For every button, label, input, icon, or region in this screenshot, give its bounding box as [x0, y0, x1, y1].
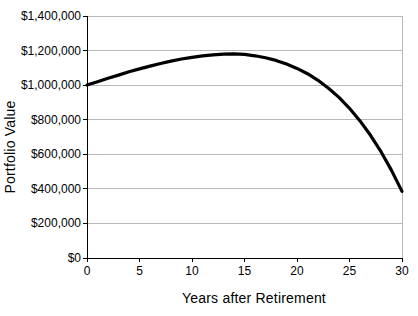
- x-axis-tick-label: 20: [290, 264, 304, 278]
- x-axis-tick-label: 30: [395, 264, 409, 278]
- y-axis-tick-label: $800,000: [31, 113, 81, 127]
- y-axis-tick-label: $1,200,000: [21, 44, 81, 58]
- x-axis-tick-label: 5: [136, 264, 143, 278]
- x-axis-tick-label: 15: [238, 264, 252, 278]
- x-axis-tick-label: 0: [84, 264, 91, 278]
- portfolio-chart: $0$200,000$400,000$600,000$800,000$1,000…: [0, 0, 418, 316]
- y-axis-tick-label: $1,000,000: [21, 78, 81, 92]
- y-axis-title: Portfolio Value: [0, 87, 20, 207]
- y-axis-tick-label: $1,400,000: [21, 9, 81, 23]
- y-axis-tick-label: $400,000: [31, 182, 81, 196]
- y-axis-tick-label: $0: [68, 251, 82, 265]
- y-axis-tick-label: $600,000: [31, 147, 81, 161]
- x-axis-tick-label: 25: [343, 264, 357, 278]
- y-axis-tick-label: $200,000: [31, 216, 81, 230]
- portfolio-value-series-line: [87, 54, 402, 192]
- x-axis-title: Years after Retirement: [164, 290, 344, 306]
- x-axis-tick-label: 10: [185, 264, 199, 278]
- chart-plot-area: $0$200,000$400,000$600,000$800,000$1,000…: [0, 0, 418, 316]
